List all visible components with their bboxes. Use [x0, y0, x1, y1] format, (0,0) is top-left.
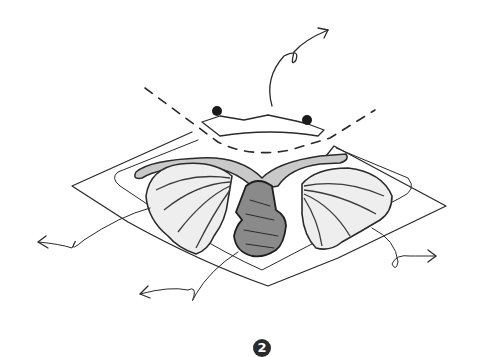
arrow-right — [372, 228, 436, 268]
central-column — [234, 181, 286, 256]
dashed-incision-line — [145, 88, 375, 153]
arrow-up — [270, 30, 328, 106]
figure-number-badge: 2 — [253, 339, 271, 357]
arrow-bottom-left — [140, 252, 238, 301]
anatomical-sketch — [0, 0, 477, 357]
arrow-left — [38, 208, 150, 248]
right-fan-lobe — [302, 168, 392, 249]
left-marker-dot — [212, 106, 222, 116]
arrow-up-head — [318, 28, 328, 38]
right-marker-dot — [302, 115, 312, 125]
